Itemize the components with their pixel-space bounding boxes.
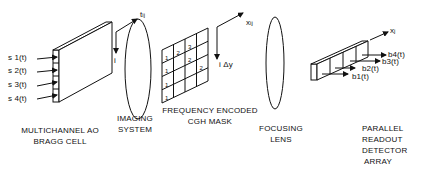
- imaging-axis-i-label: i: [114, 56, 116, 66]
- mask-axis-arrows: [217, 13, 243, 59]
- output-label-b1: b1(t): [352, 72, 369, 82]
- input-label-s1: s 1(t): [8, 53, 27, 63]
- caption-bragg-cell: MULTICHANNEL AO BRAGG CELL: [10, 125, 110, 147]
- imaging-lens-shape: [116, 19, 151, 119]
- mask-axis-x-label: xij: [246, 18, 253, 28]
- detector-axis-x-label: xj: [390, 26, 396, 36]
- input-label-s2: s 2(t): [8, 66, 27, 76]
- output-label-b3: b3(t): [382, 57, 399, 67]
- input-label-s3: s 3(t): [8, 80, 27, 90]
- imaging-axis-t-label: tij: [140, 10, 145, 20]
- mask-axis-iy-label: i Δy: [219, 60, 233, 70]
- focusing-lens-shape: [266, 17, 284, 109]
- caption-imaging-system: IMAGING SYSTEM: [112, 113, 158, 135]
- caption-focusing-lens: FOCUSING LENS: [256, 123, 306, 145]
- input-label-s4: s 4(t): [8, 94, 27, 104]
- bragg-cell-shape: [37, 22, 112, 102]
- caption-detector-array: PARALLEL READOUT DETECTOR ARRAY: [362, 123, 422, 167]
- caption-cgh-mask: FREQUENCY ENCODED CGH MASK: [158, 105, 262, 127]
